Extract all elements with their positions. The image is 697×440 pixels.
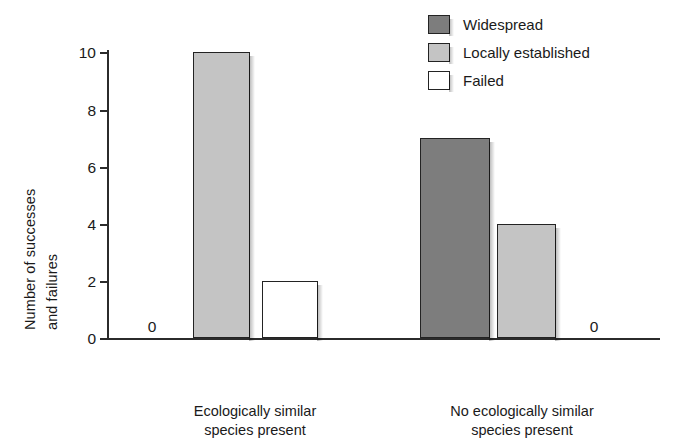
y-tick-label-2: 2 — [87, 273, 96, 291]
y-tick-4 — [100, 224, 107, 226]
x-axis-line — [107, 338, 660, 340]
y-tick-label-6: 6 — [87, 159, 96, 177]
legend-label-widespread: Widespread — [463, 16, 543, 33]
legend: Widespread Locally established Failed — [428, 12, 590, 96]
y-tick-label-8: 8 — [87, 102, 96, 120]
x-axis-group-label-2-line-2: species present — [450, 421, 593, 440]
x-axis-group-label-1-line-2: species present — [194, 421, 316, 440]
legend-item-failed[interactable]: Failed — [428, 68, 590, 93]
y-axis-title-line-2: and failures — [44, 254, 61, 330]
legend-swatch-failed — [428, 71, 450, 90]
y-axis-line — [107, 50, 109, 340]
y-axis-title: Number of successes and failures — [0, 0, 72, 346]
legend-swatch-widespread — [428, 15, 450, 34]
legend-label-failed: Failed — [463, 72, 504, 89]
x-axis-group-label-2-line-1: No ecologically similar — [450, 402, 593, 421]
legend-item-locally-established[interactable]: Locally established — [428, 40, 590, 65]
bar-group2-locally-established[interactable] — [497, 224, 556, 338]
legend-item-widespread[interactable]: Widespread — [428, 12, 590, 37]
x-axis-group-label-1: Ecologically similar species present — [194, 402, 316, 440]
y-tick-2 — [100, 281, 107, 283]
legend-swatch-locally-established — [428, 43, 450, 62]
bar-zero-annotation-group2-failed: 0 — [590, 318, 599, 336]
y-tick-10 — [100, 52, 107, 54]
legend-label-locally-established: Locally established — [463, 44, 590, 61]
bar-zero-annotation-group1-widespread: 0 — [148, 318, 157, 336]
y-axis-title-line-1: Number of successes — [22, 189, 39, 330]
bar-group2-widespread[interactable] — [420, 138, 490, 338]
y-tick-label-0: 0 — [87, 330, 96, 348]
y-tick-8 — [100, 110, 107, 112]
y-tick-label-4: 4 — [87, 216, 96, 234]
y-tick-label-10: 10 — [79, 44, 96, 62]
y-tick-6 — [100, 167, 107, 169]
y-tick-0 — [100, 338, 107, 340]
x-axis-group-label-1-line-1: Ecologically similar — [194, 402, 316, 421]
bar-group1-locally-established[interactable] — [193, 52, 250, 338]
x-axis-group-label-2: No ecologically similar species present — [450, 402, 593, 440]
bar-group1-failed[interactable] — [262, 281, 318, 338]
